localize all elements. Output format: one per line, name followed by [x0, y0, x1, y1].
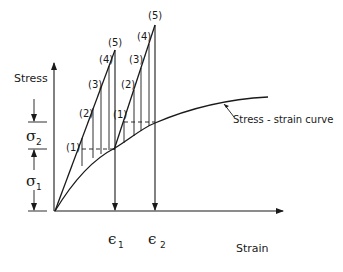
- line2-label-2: (2): [121, 79, 135, 90]
- line1-label-4: (4): [99, 54, 113, 65]
- x-axis-label: Strain: [236, 242, 269, 255]
- eps1-subscript: 1: [118, 240, 124, 250]
- stress-strain-diagram: Stress Strain Stress - strain curve (1) …: [0, 0, 343, 272]
- sigma2-symbol: σ: [26, 127, 36, 145]
- line2-label-3: (3): [129, 54, 143, 65]
- line1-label-3: (3): [88, 79, 102, 90]
- eps2-subscript: 2: [160, 240, 166, 250]
- line1-label-2: (2): [79, 108, 93, 119]
- curve-label-leader: [110, 104, 234, 130]
- eps1-symbol: ϵ: [108, 230, 116, 248]
- sigma2-subscript: 2: [36, 137, 42, 147]
- load-line-1: [55, 50, 115, 211]
- curve-label: Stress - strain curve: [233, 114, 333, 125]
- sigma1-subscript: 1: [36, 182, 42, 192]
- line1-label-5: (5): [108, 37, 122, 48]
- line2-label-4: (4): [137, 31, 151, 42]
- y-axis-label: Stress: [14, 72, 48, 85]
- line2-label-1: (1): [113, 109, 127, 120]
- line2-label-5: (5): [148, 10, 162, 21]
- line1-label-1: (1): [66, 142, 80, 153]
- sigma1-symbol: σ: [26, 172, 36, 190]
- eps2-symbol: ϵ: [148, 230, 156, 248]
- stress-dimension-markers: [28, 99, 47, 211]
